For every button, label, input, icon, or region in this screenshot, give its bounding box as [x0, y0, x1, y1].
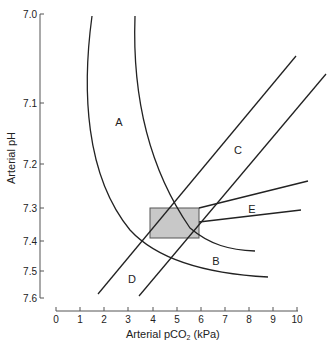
svg-text:8: 8	[246, 314, 252, 325]
svg-text:9: 9	[270, 314, 276, 325]
svg-text:7.3: 7.3	[23, 203, 37, 214]
svg-text:7.1: 7.1	[23, 98, 37, 109]
svg-text:E: E	[248, 203, 255, 215]
region-labels: A B C D E	[115, 116, 255, 285]
svg-text:5: 5	[174, 314, 180, 325]
y-tick-labels: 7.0 7.1 7.2 7.3 7.4 7.5 7.6	[23, 9, 37, 304]
svg-text:0: 0	[53, 314, 59, 325]
svg-text:10: 10	[291, 314, 303, 325]
svg-text:A: A	[115, 116, 123, 128]
svg-text:7: 7	[222, 314, 228, 325]
svg-text:7.6: 7.6	[23, 293, 37, 304]
svg-text:B: B	[212, 255, 219, 267]
svg-text:1: 1	[77, 314, 83, 325]
svg-text:7.2: 7.2	[23, 159, 37, 170]
svg-text:C: C	[234, 144, 242, 156]
svg-text:4: 4	[150, 314, 156, 325]
svg-text:6: 6	[198, 314, 204, 325]
y-ticks	[40, 14, 44, 298]
svg-text:7.5: 7.5	[23, 266, 37, 277]
x-axis-label: Arterial pCO2 (kPa)	[126, 328, 220, 341]
x-tick-labels: 0 1 2 3 4 5 6 7 8 9 10	[53, 314, 303, 325]
svg-text:7.0: 7.0	[23, 9, 37, 20]
svg-text:D: D	[128, 273, 136, 285]
y-axis-label: Arterial pH	[5, 132, 17, 184]
svg-text:7.4: 7.4	[23, 236, 37, 247]
diagonal-upper	[98, 56, 296, 294]
x-ticks	[56, 307, 297, 311]
acid-base-chart: 7.0 7.1 7.2 7.3 7.4 7.5 7.6 Arterial pH …	[0, 0, 330, 342]
svg-text:2: 2	[101, 314, 107, 325]
svg-text:3: 3	[125, 314, 131, 325]
diagonal-lower	[139, 74, 326, 296]
